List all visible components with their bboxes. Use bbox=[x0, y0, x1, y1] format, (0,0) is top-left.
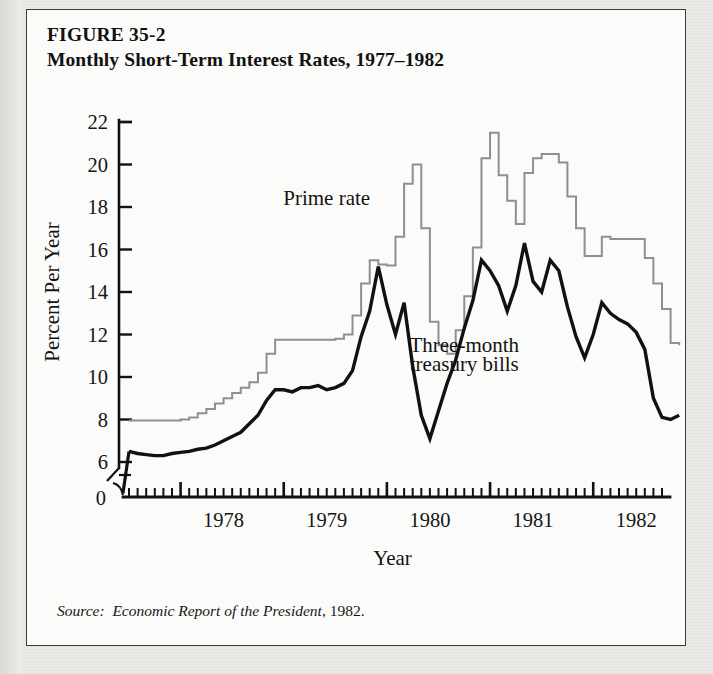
interest-rate-line-chart: 68101214161820220 19781979198019811982 P… bbox=[27, 10, 687, 647]
source-prefix: Source: bbox=[57, 602, 105, 619]
y-tick-label: 14 bbox=[88, 281, 109, 303]
chart-plot-area: 68101214161820220 19781979198019811982 P… bbox=[27, 10, 687, 647]
figure-inner: FIGURE 35-2 Monthly Short-Term Interest … bbox=[27, 10, 685, 645]
y-tick-label: 12 bbox=[88, 324, 109, 346]
y-tick-label: 18 bbox=[88, 196, 109, 218]
chart-series-group bbox=[123, 133, 679, 493]
source-note: Source: Economic Report of the President… bbox=[57, 602, 365, 620]
y-tick-label: 10 bbox=[88, 366, 109, 388]
chart-annotation-label: treasury bills bbox=[410, 352, 519, 376]
x-tick-label: 1978 bbox=[203, 509, 244, 531]
y-axis-title: Percent Per Year bbox=[40, 222, 64, 361]
source-suffix: , 1982. bbox=[322, 602, 365, 619]
x-tick-label: 1981 bbox=[513, 509, 554, 531]
y-axis-ticks bbox=[119, 122, 132, 475]
x-axis-tick-labels: 19781979198019811982 bbox=[203, 509, 657, 531]
y-zero-label: 0 bbox=[96, 487, 106, 509]
chart-annotation-label: Prime rate bbox=[283, 186, 370, 210]
x-axis-title: Year bbox=[373, 546, 412, 570]
x-axis-ticks bbox=[129, 482, 662, 497]
series-line-treasury-bills bbox=[129, 243, 679, 456]
x-tick-label: 1979 bbox=[306, 509, 347, 531]
y-tick-label: 20 bbox=[88, 154, 109, 176]
y-tick-label: 6 bbox=[98, 451, 108, 473]
x-tick-label: 1982 bbox=[616, 509, 657, 531]
page-left-margin bbox=[0, 0, 22, 674]
figure-box: FIGURE 35-2 Monthly Short-Term Interest … bbox=[26, 9, 686, 646]
y-tick-label: 22 bbox=[88, 111, 109, 133]
y-tick-label: 8 bbox=[98, 409, 108, 431]
source-title: Economic Report of the President bbox=[112, 602, 322, 619]
y-tick-label: 16 bbox=[88, 239, 109, 261]
y-axis-tick-labels: 68101214161820220 bbox=[88, 111, 109, 509]
x-tick-label: 1980 bbox=[409, 509, 450, 531]
series-line-prime-rate bbox=[129, 133, 679, 421]
chart-annotations: Prime rateThree-monthtreasury bills bbox=[283, 186, 519, 376]
